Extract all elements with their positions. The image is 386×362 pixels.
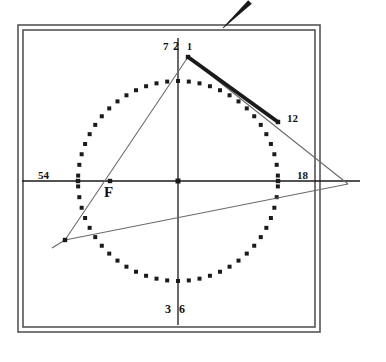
marked-points-group: [63, 55, 280, 242]
label-2: 2: [173, 40, 179, 52]
frame-group: [18, 25, 320, 332]
pen-stroke-group: [223, 0, 252, 28]
label-54: 54: [38, 170, 49, 181]
label-12: 12: [287, 113, 298, 124]
triangle-lines-group: [52, 57, 348, 248]
frame-outer-border: [18, 25, 320, 332]
label-18: 18: [297, 170, 308, 181]
diagram-vector-layer: [0, 0, 386, 362]
label-7: 7: [163, 41, 169, 52]
label-F: F: [104, 185, 113, 200]
label-1: 1: [187, 42, 192, 52]
axes-group: [22, 38, 360, 325]
bold-chord-group: [188, 57, 278, 122]
label-3: 3: [165, 303, 171, 315]
label-6: 6: [179, 303, 185, 315]
frame-inner-border: [23, 30, 315, 327]
diagram-canvas: 72136541812F: [0, 0, 386, 362]
